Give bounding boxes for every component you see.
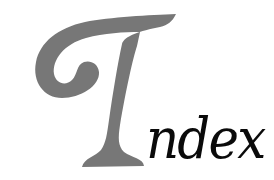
- index-heading: ndex: [0, 0, 274, 180]
- heading-rest-text: ndex: [146, 111, 264, 167]
